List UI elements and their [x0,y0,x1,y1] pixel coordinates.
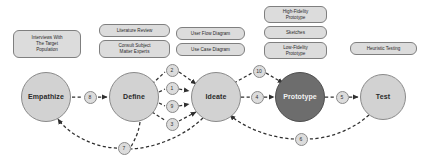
edge-badge3-ideate [179,112,196,121]
step-badge-10[interactable]: 10 [253,65,266,78]
stage-label: Prototype [283,93,317,100]
stage-ideate[interactable]: Ideate [191,72,241,122]
edge-badge1-ideate [179,89,189,91]
note-label: High-Fidelity Prototype [281,9,311,20]
note-label: Consult Subject Matter Experts [116,43,152,54]
edge-define-badge7 [131,122,140,148]
edge-badge2-ideate [179,72,196,84]
edge-define-badge9 [159,103,165,106]
edge-badge7-empathize [58,119,117,148]
step-badge-8[interactable]: 8 [84,91,97,104]
note-high-fidelity[interactable]: High-Fidelity Prototype [264,6,327,23]
step-badge-9[interactable]: 9 [166,100,179,113]
edge-test-badge6 [308,115,369,139]
edge-define-badge1 [159,89,165,92]
stage-label: Define [123,93,145,100]
step-badge-2[interactable]: 2 [166,64,179,77]
note-sketches[interactable]: Sketches [264,26,327,39]
edge-ideate-badge10 [234,73,252,83]
badge-label: 9 [171,104,174,109]
note-label: Literature Review [115,28,155,34]
badge-label: 6 [300,137,303,142]
stage-empathize[interactable]: Empathize [21,72,71,122]
badge-label: 10 [256,69,262,74]
badge-label: 8 [89,95,92,100]
stage-prototype[interactable]: Prototype [275,72,325,122]
note-label: Sketches [284,30,307,36]
note-label: Use Case Diagram [189,47,232,53]
note-interviews[interactable]: Interviews With The Target Population [13,30,81,58]
note-user-flow[interactable]: User Flow Diagram [176,27,245,40]
edge-define-badge3 [152,112,166,121]
stage-label: Empathize [28,93,64,100]
step-badge-4[interactable]: 4 [251,91,264,104]
step-badge-5[interactable]: 5 [336,91,349,104]
note-sme[interactable]: Consult Subject Matter Experts [99,40,170,58]
badge-label: 3 [171,122,174,127]
edge-badge6-ideate [230,115,294,139]
badge-label: 5 [341,95,344,100]
edge-badge9-ideate [179,104,189,106]
note-label: Interviews With The Target Population [29,35,64,52]
stage-define[interactable]: Define [109,72,159,122]
step-badge-6[interactable]: 6 [295,133,308,146]
note-use-case[interactable]: Use Case Diagram [176,43,245,56]
design-thinking-diagram: Interviews With The Target PopulationLit… [0,0,430,165]
note-literature[interactable]: Literature Review [99,24,170,37]
note-low-fidelity[interactable]: Low-Fidelity Prototype [264,42,327,59]
badge-label: 4 [256,95,259,100]
step-badge-1[interactable]: 1 [166,82,179,95]
note-label: Heuristic Testing [365,46,403,52]
note-label: Low-Fidelity Prototype [281,45,310,56]
stage-label: Test [376,93,390,100]
badge-label: 2 [171,68,174,73]
badge-label: 1 [171,86,174,91]
note-label: User Flow Diagram [189,31,232,37]
step-badge-3[interactable]: 3 [166,118,179,131]
stage-test[interactable]: Test [360,74,406,120]
note-heuristic[interactable]: Heuristic Testing [350,42,417,55]
step-badge-7[interactable]: 7 [118,142,131,155]
badge-label: 7 [123,146,126,151]
stage-label: Ideate [206,93,227,100]
